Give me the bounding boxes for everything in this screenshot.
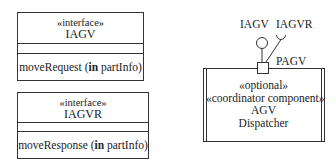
required-interface-label: IAGVR <box>276 18 312 30</box>
component-stereotype-coordinator: «coordinator component» <box>206 92 321 105</box>
component-name-line-1: AGV <box>206 104 321 117</box>
port-label: PAGV <box>276 55 306 67</box>
port-square <box>258 63 269 74</box>
component-name-line-2: Dispatcher <box>206 117 321 130</box>
component-stereotype-optional: «optional» <box>206 79 321 92</box>
required-interface-socket-icon <box>277 35 286 40</box>
provided-interface-label: IAGV <box>240 18 269 30</box>
component-label: «optional» «coordinator component» AGV D… <box>206 79 321 129</box>
provided-interface-ball-icon <box>257 38 268 49</box>
